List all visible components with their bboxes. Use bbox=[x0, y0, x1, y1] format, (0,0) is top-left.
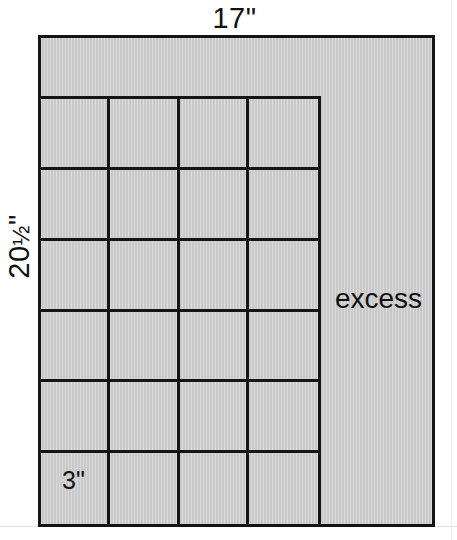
grid-cell bbox=[249, 453, 318, 524]
squares-grid bbox=[38, 96, 321, 527]
grid-cell bbox=[110, 382, 179, 453]
top-dimension-text: 17" bbox=[212, 2, 256, 35]
left-dimension-unit: " bbox=[3, 214, 35, 225]
grid-cell bbox=[41, 99, 110, 170]
grid-cell bbox=[110, 170, 179, 241]
grid-cell bbox=[180, 99, 249, 170]
grid-cell bbox=[41, 382, 110, 453]
grid-cell bbox=[41, 170, 110, 241]
grid-cell bbox=[180, 453, 249, 524]
top-dimension-label: 17" bbox=[0, 2, 457, 35]
grid-cell bbox=[180, 382, 249, 453]
grid-cell bbox=[249, 170, 318, 241]
grid-cell bbox=[180, 312, 249, 383]
grid-cell bbox=[110, 99, 179, 170]
grid-cell bbox=[110, 241, 179, 312]
grid-cell bbox=[249, 382, 318, 453]
grid-cell bbox=[180, 241, 249, 312]
grid-cell bbox=[41, 241, 110, 312]
left-dimension-label: 20½" bbox=[3, 187, 36, 307]
grid-cell bbox=[249, 241, 318, 312]
excess-region-label: excess bbox=[322, 283, 435, 315]
grid-cell bbox=[41, 312, 110, 383]
scan-artifact-vertical-line bbox=[451, 0, 452, 540]
left-dimension-fraction: ½ bbox=[7, 225, 35, 245]
left-dimension-whole: 20 bbox=[3, 245, 35, 278]
grid-cell bbox=[180, 170, 249, 241]
grid-cell bbox=[249, 312, 318, 383]
grid-cell bbox=[110, 453, 179, 524]
grid-cell bbox=[110, 312, 179, 383]
diagram-canvas: 17" 20½" excess 3" bbox=[0, 0, 457, 540]
square-size-label: 3" bbox=[38, 466, 109, 495]
grid-cell bbox=[249, 99, 318, 170]
